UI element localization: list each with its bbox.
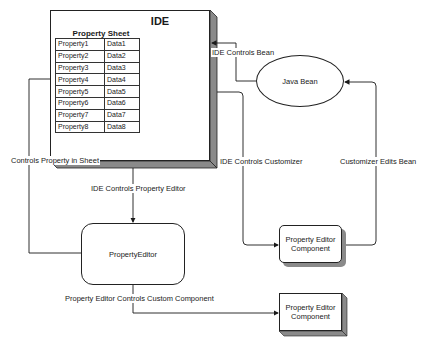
data-cell: Data6 [105,97,140,109]
property-cell: Property5 [56,86,105,98]
component-bottom-shade [279,331,347,336]
table-row: Property8Data8 [56,121,140,133]
label-ide-controls-bean: IDE Controls Bean [211,48,275,57]
property-cell: Property7 [56,109,105,121]
table-row: Property7Data7 [56,109,140,121]
table-row: Property3Data3 [56,62,140,74]
property-cell: Property3 [56,62,105,74]
table-row: Property2Data2 [56,50,140,62]
data-cell: Data4 [105,74,140,86]
property-cell: Property4 [56,74,105,86]
table-row: Property4Data4 [56,74,140,86]
table-row: Property6Data6 [56,97,140,109]
java-bean-node: Java Bean [256,55,344,107]
data-cell: Data5 [105,86,140,98]
custom-component-node: Property Editor Component [279,293,342,331]
table-row: Property5Data5 [56,86,140,98]
customizer-component-node: Property Editor Component [279,225,342,263]
label-pe-controls-custom-component: Property Editor Controls Custom Componen… [64,294,215,303]
custom-component-label-line1: Property Editor [285,303,335,312]
customizer-component-label-line1: Property Editor [285,235,335,244]
property-cell: Property6 [56,97,105,109]
property-cell: Property2 [56,50,105,62]
customizer-component-label-line2: Component [285,244,335,253]
ide-title: IDE [51,15,209,27]
property-sheet-title: Property Sheet [51,29,151,38]
property-cell: Property1 [56,39,105,51]
ide-box-side-shade [210,10,217,168]
data-cell: Data2 [105,50,140,62]
property-sheet-table: Property1Data1 Property2Data2 Property3D… [55,38,140,133]
java-bean-label: Java Bean [282,77,317,86]
custom-component-label-line2: Component [285,312,335,321]
data-cell: Data7 [105,109,140,121]
table-row: Property1Data1 [56,39,140,51]
label-controls-property-in-sheet: Controls Property in Sheet [10,156,100,165]
data-cell: Data3 [105,62,140,74]
label-customizer-edits-bean: Customizer Edits Bean [339,157,417,166]
property-cell: Property8 [56,121,105,133]
label-ide-controls-property-editor: IDE Controls Property Editor [90,184,187,193]
data-cell: Data1 [105,39,140,51]
property-editor-label: PropertyEditor [109,250,157,259]
data-cell: Data8 [105,121,140,133]
label-ide-controls-customizer: IDE Controls Customizer [219,157,304,166]
edge-ide-controls-customizer [217,92,278,245]
property-editor-node: PropertyEditor [81,223,185,285]
component-side-shade [342,293,347,336]
